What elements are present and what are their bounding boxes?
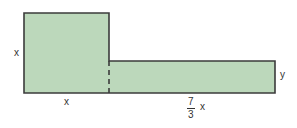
fraction-denominator: 3: [188, 109, 194, 120]
rectangle-length-fraction: 7 3: [187, 97, 195, 120]
composite-shape-outline: [24, 13, 275, 93]
composite-figure-diagram: x x y 7 3 x: [0, 0, 297, 128]
square-left-side-label: x: [14, 48, 19, 58]
rectangle-length-variable-label: x: [200, 102, 205, 112]
figure-shapes: [0, 0, 297, 128]
fraction-numerator: 7: [187, 97, 195, 109]
rectangle-height-label: y: [280, 70, 285, 80]
square-bottom-side-label: x: [64, 97, 69, 107]
